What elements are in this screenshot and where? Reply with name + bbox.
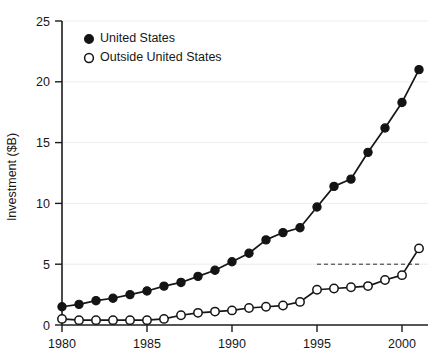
data-point — [92, 316, 100, 324]
data-point — [364, 148, 372, 156]
data-point — [143, 316, 151, 324]
data-point — [330, 284, 338, 292]
legend-label-united-states: United States — [100, 31, 175, 45]
data-point — [160, 315, 168, 323]
data-point — [347, 175, 355, 183]
data-point — [228, 306, 236, 314]
data-point — [364, 282, 372, 290]
y-tick-label-25: 25 — [36, 15, 50, 29]
data-point — [126, 316, 134, 324]
data-point — [398, 98, 406, 106]
y-axis: 0510152025 — [36, 15, 62, 333]
data-point — [58, 303, 66, 311]
data-point — [211, 307, 219, 315]
data-point — [313, 286, 321, 294]
x-tick-label-1995: 1995 — [303, 337, 331, 351]
data-point — [415, 244, 423, 252]
chart-legend: United States Outside United States — [85, 31, 222, 64]
data-point — [228, 258, 236, 266]
x-tick-label-2000: 2000 — [388, 337, 416, 351]
data-point — [75, 300, 83, 308]
data-point — [245, 304, 253, 312]
data-point — [296, 224, 304, 232]
data-point — [194, 309, 202, 317]
data-point — [58, 315, 66, 323]
legend-marker-outside-united-states — [85, 54, 94, 63]
data-point — [279, 228, 287, 236]
data-point — [262, 236, 270, 244]
data-point — [177, 278, 185, 286]
data-point — [347, 283, 355, 291]
investment-line-chart: 0510152025 19801985199019952000 Investme… — [0, 0, 434, 355]
x-tick-label-1980: 1980 — [48, 337, 76, 351]
y-tick-group: 0510152025 — [36, 15, 62, 333]
y-tick-label-20: 20 — [36, 75, 50, 89]
data-point — [398, 271, 406, 279]
data-point — [177, 311, 185, 319]
data-point — [75, 316, 83, 324]
data-point — [262, 303, 270, 311]
y-tick-label-5: 5 — [43, 258, 50, 272]
data-point — [313, 203, 321, 211]
legend-label-outside-united-states: Outside United States — [100, 50, 222, 64]
y-axis-title: Investment ($B) — [5, 133, 19, 221]
y-tick-label-0: 0 — [43, 319, 50, 333]
data-point — [245, 249, 253, 257]
series-line-united-states — [62, 70, 419, 307]
y-tick-label-10: 10 — [36, 197, 50, 211]
legend-marker-united-states — [85, 35, 94, 44]
y-tick-label-15: 15 — [36, 136, 50, 150]
data-point — [330, 182, 338, 190]
data-point — [381, 124, 389, 132]
data-point — [279, 301, 287, 309]
data-point — [194, 272, 202, 280]
data-point — [160, 282, 168, 290]
x-tick-label-1985: 1985 — [133, 337, 161, 351]
data-point — [415, 66, 423, 74]
data-point — [109, 316, 117, 324]
series-outside-united-states — [58, 244, 423, 324]
chart-canvas: 0510152025 19801985199019952000 Investme… — [0, 0, 434, 355]
x-tick-group: 19801985199019952000 — [48, 325, 416, 351]
data-point — [296, 298, 304, 306]
data-point — [109, 294, 117, 302]
data-point — [143, 287, 151, 295]
data-point — [126, 291, 134, 299]
x-axis: 19801985199019952000 — [48, 325, 428, 351]
series-united-states — [58, 66, 423, 311]
data-point — [92, 297, 100, 305]
data-point — [211, 266, 219, 274]
x-tick-label-1990: 1990 — [218, 337, 246, 351]
data-point — [381, 276, 389, 284]
